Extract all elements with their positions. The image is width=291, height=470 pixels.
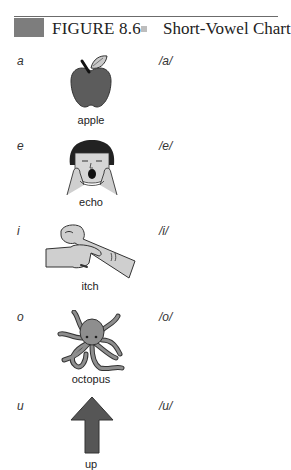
shouting-face-icon (64, 139, 120, 195)
apple-icon (68, 55, 114, 109)
row-sound: /u/ (159, 399, 172, 413)
row-letter: o (17, 310, 24, 324)
row-letter: a (17, 54, 24, 68)
row-letter: u (17, 399, 24, 413)
row-word: itch (50, 280, 130, 292)
row-word: echo (51, 196, 131, 208)
separator-square (141, 26, 147, 32)
row-letter: e (17, 139, 24, 153)
header-rule (14, 16, 278, 17)
row-sound: /a/ (159, 54, 172, 68)
figure-label: FIGURE 8.6 (52, 19, 141, 39)
figure-title: Short-Vowel Chart (163, 19, 291, 39)
row-sound: /o/ (159, 310, 172, 324)
octopus-icon (56, 310, 128, 372)
row-word: octopus (51, 373, 131, 385)
scratching-arm-icon (45, 223, 137, 283)
row-word: up (51, 458, 131, 470)
row-sound: /i/ (159, 224, 168, 238)
row-letter: i (17, 224, 20, 238)
row-word: apple (51, 114, 131, 126)
up-arrow-icon (70, 396, 114, 454)
header-block (14, 18, 44, 37)
row-sound: /e/ (159, 139, 172, 153)
